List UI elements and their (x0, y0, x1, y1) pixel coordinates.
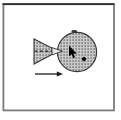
drag-cone-into-sphere-figure (0, 0, 121, 120)
illustration-panel (0, 0, 121, 120)
halftone-sphere-shape[interactable] (57, 32, 96, 71)
top-edge-dot (71, 30, 77, 33)
